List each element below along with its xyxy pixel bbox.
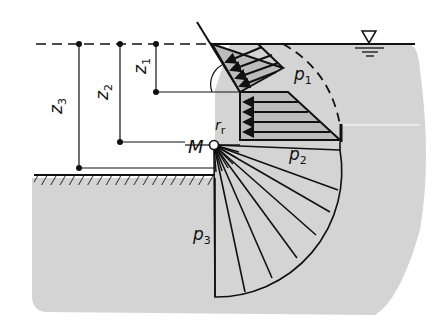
center-point-M (210, 141, 219, 150)
diagram-svg (0, 0, 447, 326)
label-p1: p1 (294, 66, 312, 86)
ground-hatching (34, 175, 214, 185)
diagram-canvas: z3 z2 z1 M rr p1 p2 p3 (0, 0, 447, 326)
label-z3: z3 (50, 96, 66, 116)
label-p2: p2 (289, 146, 307, 166)
label-rr: rr (215, 118, 225, 136)
label-p3: p3 (193, 226, 211, 246)
label-z2: z2 (96, 82, 112, 102)
label-M: M (188, 138, 204, 156)
label-z1: z1 (134, 56, 150, 76)
